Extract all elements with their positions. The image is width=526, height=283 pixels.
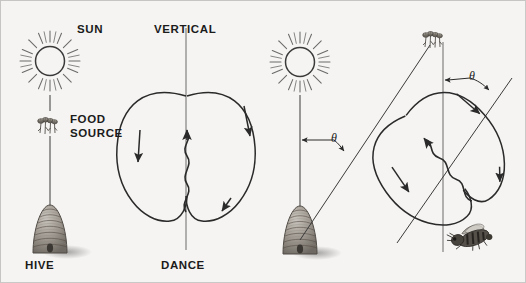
sun-label: SUN <box>77 22 103 36</box>
bee-icon <box>445 222 494 256</box>
panel-left-dance <box>117 28 255 250</box>
dance-left-lobe <box>117 93 187 222</box>
dance-label: DANCE <box>161 258 205 272</box>
flower-cluster-icon <box>423 32 443 49</box>
hive-icon <box>283 206 342 260</box>
theta-label-left-panel: θ <box>331 131 337 146</box>
diagram-vector-layer <box>0 0 526 283</box>
dance-left-lobe-arrow <box>390 167 410 192</box>
sun-icon <box>270 32 330 92</box>
vertical-label: VERTICAL <box>154 22 216 36</box>
figure-canvas: SUN VERTICAL FOOD SOURCE HIVE DANCE θ θ <box>0 0 526 283</box>
hive-to-food-bearing-line <box>300 45 430 240</box>
food-source-label: FOOD SOURCE <box>70 112 123 140</box>
panel-left-sun-food-hive-axis <box>20 31 92 259</box>
waggle-run-path <box>423 139 474 203</box>
panel-right-dance <box>355 42 526 255</box>
dance-right-lobe <box>404 75 526 208</box>
dance-right-lower-arrow <box>222 198 231 211</box>
theta-label-right-panel: θ <box>469 69 475 84</box>
dance-right-lobe-arrow <box>457 90 480 117</box>
panel-right-sun-hive-axis <box>270 32 442 261</box>
sun-icon <box>20 31 80 91</box>
dance-left-lobe <box>355 113 479 247</box>
hive-label: HIVE <box>25 258 54 272</box>
hive-icon <box>33 205 92 259</box>
flower-cluster-icon <box>38 118 58 135</box>
dance-left-lobe-arrow <box>138 130 140 162</box>
theta-arc-lead-left <box>448 78 470 80</box>
